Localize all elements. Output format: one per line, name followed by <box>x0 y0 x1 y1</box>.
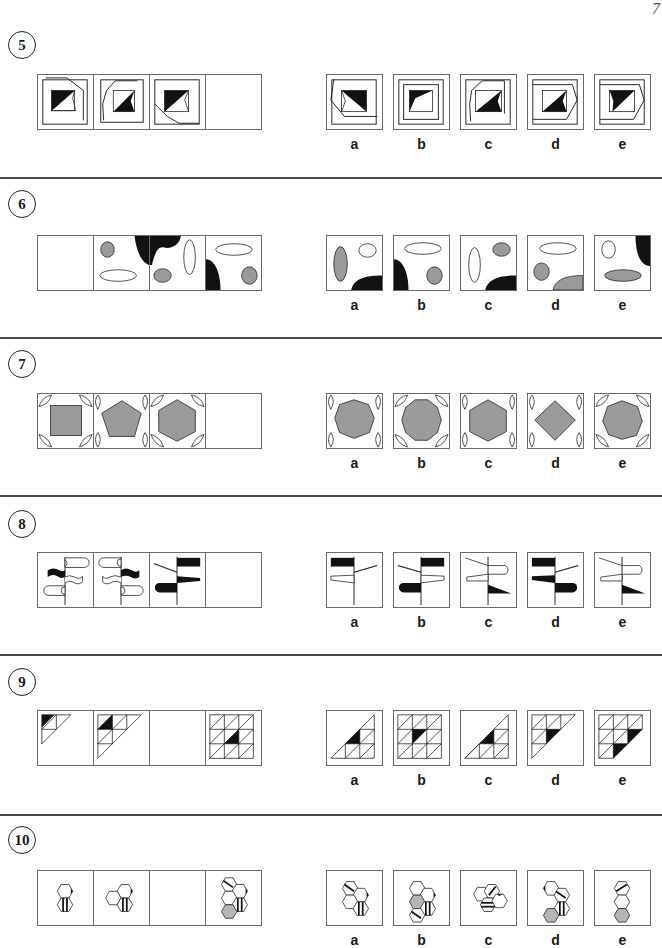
section-divider <box>0 337 662 339</box>
question-cell <box>205 235 262 291</box>
answer-option-c[interactable] <box>460 870 517 926</box>
question-cell <box>93 235 150 291</box>
answer-figure-icon <box>595 236 650 290</box>
answer-label: b <box>393 614 450 630</box>
answer-option-c[interactable] <box>460 552 517 608</box>
answer-option-b[interactable] <box>393 710 450 766</box>
answer-option-e[interactable] <box>594 235 651 291</box>
answer-option-b[interactable] <box>393 393 450 449</box>
answer-option-a[interactable] <box>326 710 383 766</box>
answer-label: c <box>460 772 517 788</box>
answer-figure-icon <box>394 711 449 765</box>
answer-label: b <box>393 455 450 471</box>
answer-label: a <box>326 932 383 948</box>
answer-label: d <box>527 136 584 152</box>
answer-option-a[interactable] <box>326 393 383 449</box>
answer-label: b <box>393 136 450 152</box>
answer-label: a <box>326 455 383 471</box>
page-number: 7 <box>652 0 660 18</box>
gray-pentagon-figure-icon <box>94 394 149 448</box>
answer-option-d[interactable] <box>527 552 584 608</box>
answer-label: e <box>594 772 651 788</box>
answer-label: b <box>393 932 450 948</box>
answer-option-d[interactable] <box>527 235 584 291</box>
question-cell <box>149 235 206 291</box>
answer-option-a[interactable] <box>326 552 383 608</box>
answer-figure-icon <box>461 236 516 290</box>
question-cell <box>149 74 206 130</box>
answer-label: e <box>594 614 651 630</box>
answer-figure-icon <box>327 871 382 925</box>
answer-option-c[interactable] <box>460 235 517 291</box>
answer-option-e[interactable] <box>594 870 651 926</box>
question-cell-blank <box>149 870 206 926</box>
answer-label: c <box>460 136 517 152</box>
question-cell <box>37 870 94 926</box>
answer-option-b[interactable] <box>393 870 450 926</box>
question-cell-blank <box>205 393 262 449</box>
answer-option-e[interactable] <box>594 393 651 449</box>
gray-square-figure-icon <box>38 394 93 448</box>
answer-option-a[interactable] <box>326 235 383 291</box>
question-cell-blank <box>205 552 262 608</box>
section-divider <box>0 177 662 179</box>
answer-option-d[interactable] <box>527 393 584 449</box>
question-strip <box>37 74 262 130</box>
answer-figure-icon <box>394 75 449 129</box>
answer-figure-icon <box>327 553 382 607</box>
answer-figure-icon <box>327 236 382 290</box>
question-cell <box>37 710 94 766</box>
answer-option-c[interactable] <box>460 710 517 766</box>
answer-option-c[interactable] <box>460 393 517 449</box>
answer-figure-icon <box>528 75 583 129</box>
question-strip <box>37 710 262 766</box>
answer-figure-icon <box>461 711 516 765</box>
answer-figure-icon <box>394 394 449 448</box>
answer-figure-icon <box>461 75 516 129</box>
answer-label: e <box>594 455 651 471</box>
question-cell <box>37 393 94 449</box>
question-strip <box>37 552 262 608</box>
answer-option-a[interactable] <box>326 870 383 926</box>
answer-option-b[interactable] <box>393 235 450 291</box>
answer-label: d <box>527 455 584 471</box>
question-cell <box>93 710 150 766</box>
answer-option-d[interactable] <box>527 870 584 926</box>
answer-label: d <box>527 614 584 630</box>
question-cell <box>205 870 262 926</box>
answer-option-c[interactable] <box>460 74 517 130</box>
answer-option-b[interactable] <box>393 74 450 130</box>
answer-option-e[interactable] <box>594 710 651 766</box>
signpost-figure-icon <box>94 553 149 607</box>
answer-label: b <box>393 297 450 313</box>
answer-option-a[interactable] <box>326 74 383 130</box>
answer-label: e <box>594 932 651 948</box>
answer-label: d <box>527 772 584 788</box>
answer-figure-icon <box>394 553 449 607</box>
answer-option-e[interactable] <box>594 552 651 608</box>
answer-option-d[interactable] <box>527 710 584 766</box>
ellipses-figure-icon <box>206 236 261 290</box>
section-divider <box>0 495 662 497</box>
question-number: 7 <box>8 350 36 378</box>
answer-label: e <box>594 297 651 313</box>
question-number: 6 <box>8 190 36 218</box>
answer-label: a <box>326 614 383 630</box>
answer-figure-icon <box>528 711 583 765</box>
answer-figure-icon <box>528 871 583 925</box>
answer-figure-icon <box>327 75 382 129</box>
ellipses-figure-icon <box>150 236 205 290</box>
answer-label: a <box>326 297 383 313</box>
answer-figure-icon <box>461 394 516 448</box>
hex-cluster-figure-icon <box>38 871 93 925</box>
answer-figure-icon <box>595 394 650 448</box>
answer-option-d[interactable] <box>527 74 584 130</box>
answer-option-b[interactable] <box>393 552 450 608</box>
answer-figure-icon <box>595 871 650 925</box>
answer-figure-icon <box>461 871 516 925</box>
answer-option-e[interactable] <box>594 74 651 130</box>
answer-figure-icon <box>461 553 516 607</box>
question-cell <box>37 74 94 130</box>
question-cell <box>93 74 150 130</box>
answer-label: d <box>527 297 584 313</box>
